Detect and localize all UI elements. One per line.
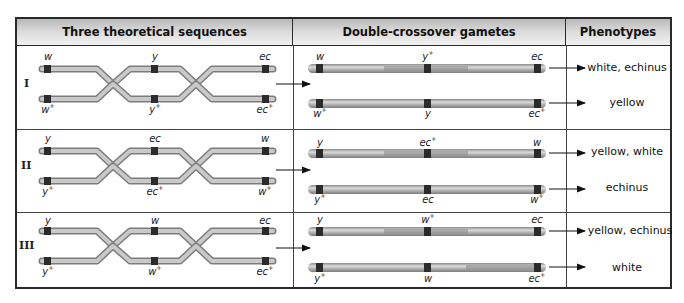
gene-label: ec xyxy=(259,215,271,226)
gene-label: w xyxy=(44,51,52,62)
row-label-III: III xyxy=(19,239,34,252)
phenotype-label: yellow xyxy=(609,96,644,109)
gene-label: w xyxy=(424,273,432,284)
gene-label: w+ xyxy=(258,186,272,197)
row-II-crossover xyxy=(42,147,585,194)
gene-label: y xyxy=(317,214,323,225)
gene-label: y+ xyxy=(422,51,433,62)
gene-label: w+ xyxy=(421,214,435,225)
gene-label: ec xyxy=(149,133,161,144)
gene-label: w xyxy=(316,51,324,62)
gene-label: y xyxy=(425,108,431,119)
gene-label: w xyxy=(151,215,159,226)
row-label-I: I xyxy=(24,77,29,90)
gene-label: w+ xyxy=(530,194,544,205)
gene-label: ec xyxy=(531,51,543,62)
gene-label: y+ xyxy=(42,186,53,197)
gene-label: y xyxy=(45,215,51,226)
gene-label: ec+ xyxy=(528,273,545,284)
gene-label: y xyxy=(45,133,51,144)
gene-label: y+ xyxy=(42,266,53,277)
phenotype-label: yellow, white xyxy=(591,145,663,158)
gene-label: ec xyxy=(531,214,543,225)
gene-label: w+ xyxy=(148,266,162,277)
gene-label: w+ xyxy=(41,104,55,115)
row-III-crossover xyxy=(42,227,585,272)
phenotype-label: echinus xyxy=(606,181,649,194)
chromosome-diagram xyxy=(0,0,684,303)
row-label-II: II xyxy=(21,159,31,172)
gene-label: w xyxy=(261,133,269,144)
gene-label: y xyxy=(317,137,323,148)
gene-label: ec+ xyxy=(528,108,545,119)
gene-label: ec+ xyxy=(146,186,163,197)
gene-label: y+ xyxy=(314,273,325,284)
gene-label: y xyxy=(152,51,158,62)
gene-label: ec xyxy=(422,194,434,205)
gene-label: w xyxy=(533,137,541,148)
gene-label: y+ xyxy=(149,104,160,115)
phenotype-label: white, echinus xyxy=(587,61,667,74)
row-I-crossover xyxy=(42,64,585,108)
gene-label: y+ xyxy=(314,194,325,205)
gene-label: ec+ xyxy=(256,266,273,277)
phenotype-label: yellow, echinus xyxy=(588,224,673,237)
gene-label: ec+ xyxy=(256,104,273,115)
gene-label: w+ xyxy=(313,108,327,119)
phenotype-label: white xyxy=(612,261,642,274)
gene-label: ec xyxy=(259,51,271,62)
gene-label: ec+ xyxy=(419,137,436,148)
